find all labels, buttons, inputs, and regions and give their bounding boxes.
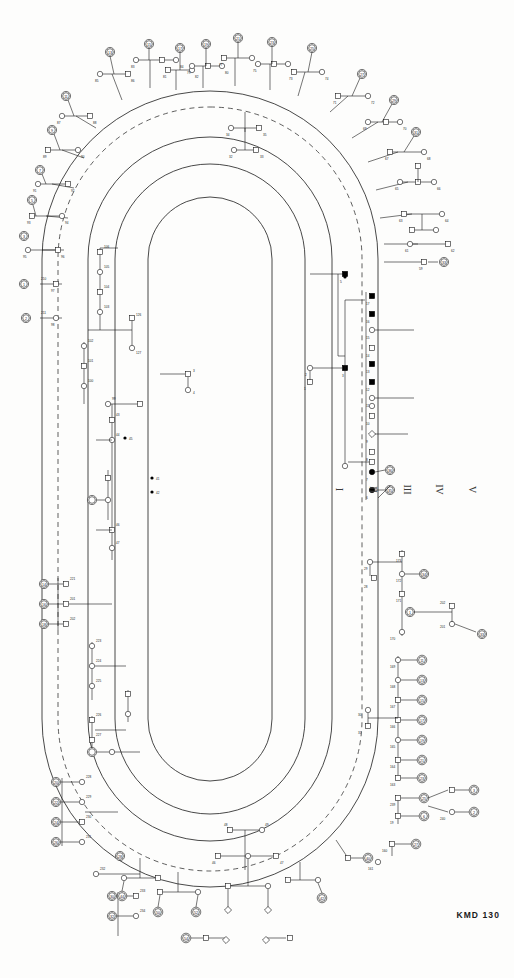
svg-text:66: 66 <box>437 187 441 191</box>
generation-legend: I II III IV V <box>330 484 490 508</box>
svg-text:3: 3 <box>193 369 195 373</box>
svg-text:14: 14 <box>42 583 46 587</box>
svg-text:46: 46 <box>212 861 216 865</box>
svg-text:42: 42 <box>156 491 160 495</box>
svg-text:22: 22 <box>54 801 58 805</box>
svg-text:8: 8 <box>366 458 368 462</box>
svg-text:32: 32 <box>229 155 233 159</box>
svg-text:33: 33 <box>442 261 446 265</box>
svg-text:169: 169 <box>390 665 395 669</box>
svg-text:92: 92 <box>71 189 75 193</box>
svg-text:7: 7 <box>39 169 41 173</box>
svg-text:232: 232 <box>100 867 105 871</box>
svg-text:166: 166 <box>390 725 395 729</box>
generation-label-4: IV <box>434 483 445 497</box>
svg-text:201: 201 <box>440 625 445 629</box>
svg-text:11: 11 <box>64 95 68 99</box>
svg-text:34: 34 <box>422 573 426 577</box>
svg-text:32: 32 <box>110 915 114 919</box>
svg-text:14: 14 <box>366 354 370 358</box>
svg-text:42: 42 <box>320 897 324 901</box>
svg-text:234: 234 <box>140 909 145 913</box>
svg-text:170: 170 <box>390 637 395 641</box>
svg-text:17: 17 <box>178 47 182 51</box>
svg-text:3: 3 <box>23 235 25 239</box>
svg-text:29: 29 <box>364 567 368 571</box>
svg-text:83: 83 <box>131 65 135 69</box>
svg-text:84: 84 <box>180 65 184 69</box>
figure-identifier: KMD 130 <box>456 910 500 920</box>
svg-text:25: 25 <box>310 47 314 51</box>
svg-text:27: 27 <box>360 73 364 77</box>
svg-text:44: 44 <box>116 433 120 437</box>
svg-text:47: 47 <box>116 541 120 545</box>
svg-text:16: 16 <box>42 603 46 607</box>
svg-text:87: 87 <box>57 121 61 125</box>
svg-text:41: 41 <box>156 477 160 481</box>
svg-text:225: 225 <box>96 679 101 683</box>
svg-text:202: 202 <box>440 601 445 605</box>
svg-text:103: 103 <box>104 305 109 309</box>
svg-text:127: 127 <box>136 351 141 355</box>
svg-text:28: 28 <box>118 855 122 859</box>
svg-text:202: 202 <box>70 617 75 621</box>
svg-text:21: 21 <box>236 37 240 41</box>
svg-text:102: 102 <box>88 339 93 343</box>
svg-text:227: 227 <box>96 733 101 737</box>
svg-text:74: 74 <box>325 77 329 81</box>
svg-text:91: 91 <box>33 189 37 193</box>
svg-text:85: 85 <box>95 79 99 83</box>
svg-text:240: 240 <box>440 817 445 821</box>
svg-text:165: 165 <box>390 745 395 749</box>
sector-upper-right: 27 7172 29 6970 31 6768 <box>330 69 455 271</box>
svg-text:233: 233 <box>140 889 145 893</box>
svg-text:23: 23 <box>420 777 424 781</box>
svg-text:30: 30 <box>358 713 362 717</box>
svg-text:230: 230 <box>86 815 91 819</box>
svg-text:167: 167 <box>390 705 395 709</box>
svg-text:105: 105 <box>104 265 109 269</box>
svg-text:2: 2 <box>305 373 307 377</box>
svg-text:211: 211 <box>41 311 46 315</box>
core-affected-family: 2 3 1 5 17 16 15 14 13 12 11 <box>304 271 414 500</box>
svg-text:98: 98 <box>51 323 55 327</box>
svg-text:226: 226 <box>96 713 101 717</box>
svg-text:17: 17 <box>366 302 370 306</box>
svg-text:6: 6 <box>423 815 425 819</box>
svg-text:15: 15 <box>366 336 370 340</box>
svg-text:5: 5 <box>340 280 342 284</box>
svg-text:27: 27 <box>414 843 418 847</box>
svg-text:67: 67 <box>385 157 389 161</box>
pedigree-sheet: .ln{stroke:#1a1a1a;stroke-width:0.6;fill… <box>0 0 514 978</box>
svg-text:10: 10 <box>366 422 370 426</box>
svg-text:12: 12 <box>366 388 370 392</box>
svg-text:29: 29 <box>392 99 396 103</box>
svg-text:9: 9 <box>366 440 368 444</box>
svg-text:19: 19 <box>420 739 424 743</box>
svg-text:25: 25 <box>422 797 426 801</box>
svg-text:33: 33 <box>260 155 264 159</box>
svg-text:163: 163 <box>390 783 395 787</box>
svg-text:172: 172 <box>396 579 401 583</box>
svg-text:15: 15 <box>147 43 151 47</box>
svg-text:221: 221 <box>70 577 75 581</box>
svg-text:70: 70 <box>403 127 407 131</box>
svg-text:2: 2 <box>473 811 475 815</box>
svg-text:54: 54 <box>184 937 188 941</box>
svg-text:31: 31 <box>358 731 362 735</box>
svg-text:19: 19 <box>390 821 394 825</box>
svg-text:3: 3 <box>342 374 344 378</box>
svg-text:1: 1 <box>23 283 25 287</box>
svg-text:7: 7 <box>366 478 368 482</box>
svg-text:160: 160 <box>382 849 387 853</box>
svg-text:16: 16 <box>366 320 370 324</box>
svg-text:95: 95 <box>23 255 27 259</box>
svg-text:171: 171 <box>396 599 401 603</box>
svg-text:73: 73 <box>289 77 293 81</box>
svg-text:210: 210 <box>41 277 46 281</box>
svg-text:15: 15 <box>420 699 424 703</box>
svg-text:33: 33 <box>480 633 484 637</box>
svg-text:68: 68 <box>427 157 431 161</box>
svg-text:3: 3 <box>473 789 475 793</box>
svg-text:79: 79 <box>187 71 191 75</box>
